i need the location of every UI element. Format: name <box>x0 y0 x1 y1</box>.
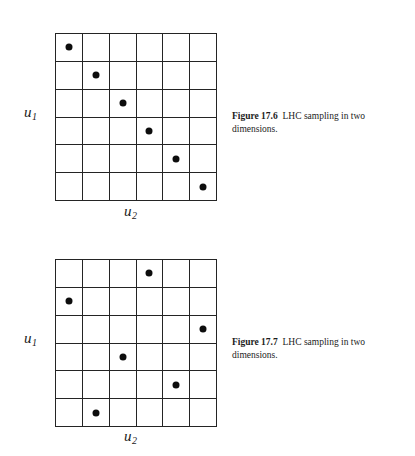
grid-cell <box>163 173 190 201</box>
sample-point <box>119 353 126 360</box>
sample-point <box>65 44 72 51</box>
grid-cell <box>56 34 83 62</box>
grid-cell <box>83 118 110 146</box>
grid-cell <box>83 145 110 173</box>
grid-cell <box>190 288 217 316</box>
grid-cell <box>190 399 217 427</box>
grid-cell <box>83 399 110 427</box>
grid-cell <box>163 316 190 344</box>
grid-cell <box>83 344 110 372</box>
x-axis-label-base: u <box>124 428 132 444</box>
grid-cell <box>163 260 190 288</box>
grid-cell <box>137 316 164 344</box>
grid-cell <box>163 34 190 62</box>
figure-caption: Figure 17.6 LHC sampling in two dimensio… <box>232 110 404 135</box>
grid-cell <box>83 288 110 316</box>
x-axis-label-base: u <box>124 203 132 219</box>
grid-cell <box>190 90 217 118</box>
sample-point <box>200 183 207 190</box>
grid-cell <box>137 173 164 201</box>
grid-cell <box>190 344 217 372</box>
y-axis-label-u1: u1 <box>24 330 37 347</box>
figure-caption: Figure 17.7 LHC sampling in two dimensio… <box>232 336 404 361</box>
grid-cell <box>83 62 110 90</box>
grid-cell <box>56 260 83 288</box>
grid-cell <box>163 371 190 399</box>
grid-cell <box>110 344 137 372</box>
grid-cell <box>163 288 190 316</box>
grid-cell <box>110 118 137 146</box>
sample-point <box>200 326 207 333</box>
sampling-grid <box>55 259 217 427</box>
grid-cell <box>83 316 110 344</box>
grid-cell <box>110 371 137 399</box>
grid-cell <box>110 145 137 173</box>
grid-cell <box>56 288 83 316</box>
grid-cell <box>83 34 110 62</box>
grid-cell <box>163 62 190 90</box>
grid-cell <box>163 344 190 372</box>
grid-cell <box>110 173 137 201</box>
grid-cell <box>56 371 83 399</box>
grid-cell <box>190 118 217 146</box>
y-axis-label-u1: u1 <box>24 104 37 121</box>
grid-cell <box>137 288 164 316</box>
sample-point <box>173 155 180 162</box>
grid-cell <box>110 260 137 288</box>
grid-cell <box>163 399 190 427</box>
grid-cell <box>56 145 83 173</box>
grid-cell <box>190 145 217 173</box>
grid-cell <box>56 316 83 344</box>
sample-point <box>146 270 153 277</box>
grid-cell <box>137 90 164 118</box>
grid-cell <box>56 118 83 146</box>
grid-cell <box>56 62 83 90</box>
sample-point <box>173 381 180 388</box>
grid-cell <box>190 316 217 344</box>
x-axis-label-u2: u2 <box>124 203 137 220</box>
sample-point <box>92 72 99 79</box>
figure-caption-label: Figure 17.7 <box>232 337 278 347</box>
grid-cell <box>110 316 137 344</box>
x-axis-label-subscript: 2 <box>132 435 137 446</box>
grid-cell <box>110 399 137 427</box>
sample-point <box>146 127 153 134</box>
x-axis-label-u2: u2 <box>124 428 137 445</box>
grid-cell <box>190 173 217 201</box>
sample-point <box>92 409 99 416</box>
grid-cell <box>110 288 137 316</box>
grid-cell <box>163 145 190 173</box>
grid-cell <box>137 145 164 173</box>
figure-caption-label: Figure 17.6 <box>232 111 278 121</box>
grid-cell <box>83 371 110 399</box>
grid-cell <box>190 260 217 288</box>
grid-cell <box>83 90 110 118</box>
grid-cell <box>163 118 190 146</box>
grid-cell <box>137 118 164 146</box>
grid-cell <box>83 173 110 201</box>
grid-cell <box>137 260 164 288</box>
sample-point <box>65 298 72 305</box>
sampling-grid-wrap <box>55 259 217 427</box>
grid-cell <box>190 34 217 62</box>
grid-cell <box>190 62 217 90</box>
grid-cell <box>190 371 217 399</box>
sample-point <box>119 100 126 107</box>
grid-cell <box>137 34 164 62</box>
grid-cell <box>137 344 164 372</box>
y-axis-label-subscript: 1 <box>32 337 37 348</box>
x-axis-label-subscript: 2 <box>132 210 137 221</box>
grid-cell <box>56 344 83 372</box>
grid-cell <box>56 173 83 201</box>
grid-cell <box>56 90 83 118</box>
sampling-grid-wrap <box>55 33 217 201</box>
grid-cell <box>110 90 137 118</box>
y-axis-label-base: u <box>24 330 32 346</box>
y-axis-label-subscript: 1 <box>32 111 37 122</box>
sampling-grid <box>55 33 217 201</box>
grid-cell <box>56 399 83 427</box>
grid-cell <box>137 371 164 399</box>
grid-cell <box>110 34 137 62</box>
y-axis-label-base: u <box>24 104 32 120</box>
grid-cell <box>83 260 110 288</box>
